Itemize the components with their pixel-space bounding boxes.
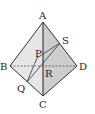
tetrahedron-diagram: A B C D P Q R S <box>0 0 95 114</box>
label-a: A <box>38 10 47 21</box>
label-p: P <box>35 48 42 59</box>
label-b: B <box>0 61 7 72</box>
label-c: C <box>39 99 47 110</box>
label-s: S <box>62 35 69 46</box>
label-d: D <box>79 61 87 72</box>
label-r: R <box>45 68 53 79</box>
label-q: Q <box>17 83 25 94</box>
